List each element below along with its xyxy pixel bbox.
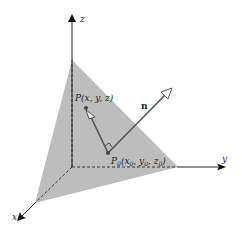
- plane-normal-diagram: z y x P(x, y, z) P0(x0, y0, z0) n: [0, 0, 242, 232]
- point-p0: [106, 151, 110, 155]
- point-p-label: P(x, y, z): [74, 93, 114, 103]
- y-axis-label: y: [221, 154, 228, 164]
- x-axis-label: x: [12, 212, 17, 222]
- x-axis: [21, 203, 35, 217]
- z-axis-arrow-icon: [68, 14, 76, 22]
- z-axis-label: z: [79, 14, 85, 24]
- normal-vector-label: n: [141, 101, 148, 111]
- point-p: [84, 106, 88, 110]
